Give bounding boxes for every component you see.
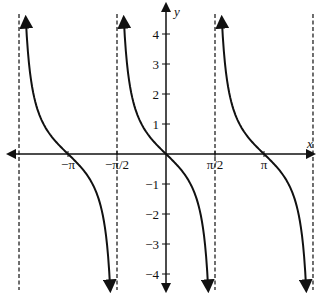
y-tick-label: −2 (145, 207, 159, 222)
y-tick-label: −4 (145, 267, 159, 282)
x-axis-label: x (306, 136, 313, 151)
y-tick-label: 1 (153, 117, 160, 132)
x-tick-label: π/2 (207, 157, 224, 172)
x-tick-label: π (261, 157, 268, 172)
y-tick-label: −1 (145, 177, 159, 192)
y-tick-label: 4 (153, 27, 160, 42)
x-tick-label: −π (61, 157, 75, 172)
y-tick-label: −3 (145, 237, 159, 252)
y-tick-label: 2 (153, 87, 160, 102)
y-axis-label: y (172, 4, 180, 19)
axes (8, 4, 314, 291)
tick-labels: 4321−1−2−3−4−π−π/2π/2πxy (61, 4, 313, 282)
y-tick-label: 3 (153, 57, 160, 72)
tangent-graph: 4321−1−2−3−4−π−π/2π/2πxy (0, 0, 319, 294)
x-tick-label: −π/2 (105, 157, 129, 172)
